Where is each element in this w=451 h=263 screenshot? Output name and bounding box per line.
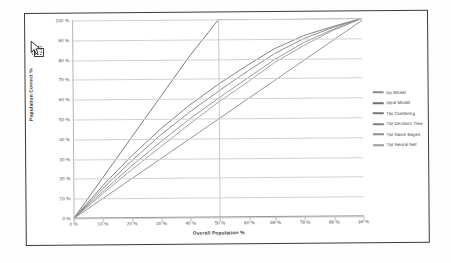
scanned-page: Population Correct % Overall Population … bbox=[0, 0, 451, 263]
y-axis-tick-label: 100 % bbox=[56, 18, 70, 23]
legend-item-label: Ideal Model bbox=[386, 100, 410, 105]
y-axis-tick-label: 0 % bbox=[62, 216, 70, 221]
legend-item-label: TM Clustering bbox=[386, 111, 415, 116]
x-axis-tick bbox=[103, 218, 104, 222]
legend-item-label: TM Neural Net bbox=[387, 142, 417, 147]
y-axis-title: Population Correct % bbox=[28, 68, 33, 121]
x-axis-tick bbox=[220, 217, 221, 221]
x-axis-tick bbox=[305, 217, 306, 221]
y-axis-tick-label: 90 % bbox=[58, 38, 69, 43]
chart-legend: No ModelIdeal ModelTM ClusteringTM Decis… bbox=[373, 87, 427, 150]
y-axis-tick-label: 50 % bbox=[59, 117, 70, 122]
y-axis-tick-label: 40 % bbox=[59, 137, 70, 142]
x-axis-tick bbox=[334, 217, 335, 221]
cumulative-gains-chart: Population Correct % Overall Population … bbox=[24, 10, 430, 246]
legend-color-swatch bbox=[373, 102, 384, 104]
legend-item[interactable]: TM Naive Bayes bbox=[373, 129, 427, 140]
plot-area bbox=[72, 18, 364, 218]
y-axis-tick-labels: 0 %10 %20 %30 %40 %50 %60 %70 %80 %90 %1… bbox=[24, 10, 428, 13]
y-axis-tick-label: 60 % bbox=[59, 97, 70, 102]
legend-color-swatch bbox=[373, 113, 384, 115]
x-axis-tick bbox=[161, 218, 162, 222]
x-axis-tick bbox=[276, 217, 277, 221]
x-axis-tick bbox=[364, 216, 365, 220]
legend-color-swatch bbox=[373, 92, 384, 94]
legend-item[interactable]: No Model bbox=[373, 87, 427, 98]
legend-item-label: No Model bbox=[386, 90, 406, 95]
x-axis-tick bbox=[249, 217, 250, 221]
x-axis-tick bbox=[191, 218, 192, 222]
legend-item[interactable]: TM Neural Net bbox=[373, 139, 427, 150]
legend-item-label: TM Decision Tree bbox=[386, 121, 422, 126]
legend-color-swatch bbox=[373, 134, 384, 136]
x-axis-title: Overall Population % bbox=[74, 229, 364, 236]
y-axis-tick-label: 10 % bbox=[60, 196, 71, 201]
legend-item[interactable]: TM Clustering bbox=[373, 108, 427, 119]
y-axis-tick-label: 70 % bbox=[59, 78, 70, 83]
legend-item[interactable]: TM Decision Tree bbox=[373, 118, 427, 129]
y-axis-tick-label: 80 % bbox=[58, 58, 69, 63]
legend-item[interactable]: Ideal Model bbox=[373, 97, 427, 108]
legend-item-label: TM Naive Bayes bbox=[386, 132, 420, 137]
y-axis-tick-label: 30 % bbox=[59, 157, 70, 162]
x-axis-tick bbox=[74, 219, 75, 223]
x-axis-tick bbox=[132, 218, 133, 222]
legend-color-swatch bbox=[373, 123, 384, 125]
y-axis-tick-label: 20 % bbox=[59, 177, 70, 182]
x-axis-tick-labels: 0 %10 %20 %30 %40 %50 %60 %69 %79 %89 %9… bbox=[24, 10, 428, 13]
legend-color-swatch bbox=[373, 144, 384, 146]
